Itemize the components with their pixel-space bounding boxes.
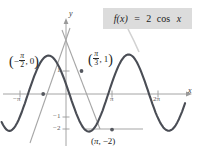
pi-over-3-fraction: π 3 bbox=[93, 50, 99, 67]
fraction-numerator: π bbox=[93, 50, 99, 58]
point-marker-pi-over-3 bbox=[80, 69, 84, 73]
fraction-numerator: π bbox=[19, 52, 25, 60]
point-marker-pi-neg-2 bbox=[110, 128, 114, 132]
y-coordinate: −2 bbox=[101, 136, 113, 146]
x-tick-label-neg-pi: −π bbox=[13, 96, 20, 103]
close-paren: ) bbox=[34, 54, 39, 69]
tangent-at-pi-over-3 bbox=[62, 30, 100, 129]
tangent-at-neg-pi-over-2 bbox=[30, 28, 70, 143]
fraction-denominator: 3 bbox=[93, 58, 99, 67]
function-label-text: f(x) = 2 cos x bbox=[114, 13, 181, 24]
x-axis-label: x bbox=[188, 87, 192, 95]
equals-sign: = bbox=[134, 13, 140, 24]
y-tick-label-1: 1 bbox=[57, 67, 61, 74]
fraction-denominator: 2 bbox=[19, 60, 25, 69]
callout-leader-line bbox=[128, 29, 139, 52]
pi-over-2-fraction: π 2 bbox=[19, 52, 25, 69]
point-marker-neg-pi-over-2 bbox=[41, 92, 45, 96]
y-tick-label-neg-2: −2 bbox=[53, 125, 60, 132]
annotation-neg-pi-over-2: (− π 2 ,0) bbox=[9, 52, 39, 69]
tangent-lines-group bbox=[30, 28, 143, 143]
close-paren: ) bbox=[112, 136, 115, 146]
annotation-pi-neg-2: (π,−2) bbox=[91, 137, 115, 146]
function-label-box: f(x) = 2 cos x bbox=[103, 8, 192, 29]
y-axis-arrow bbox=[64, 18, 69, 24]
x-tick-label-2pi: 2π bbox=[153, 96, 160, 103]
function-name: f(x) bbox=[114, 13, 128, 24]
x-tick-label-pi: π bbox=[110, 96, 114, 103]
close-paren: ) bbox=[108, 52, 113, 67]
variable-x: x bbox=[177, 13, 181, 24]
open-paren: ( bbox=[88, 52, 93, 67]
math-figure-cosine-graph: f(x) = 2 cos x x y −π π 2π 1 −1 −2 (− π … bbox=[0, 0, 198, 156]
minus-sign: − bbox=[14, 56, 19, 66]
annotation-pi-over-3: ( π 3 ,1) bbox=[88, 50, 113, 67]
cos-operator: cos bbox=[157, 13, 170, 24]
y-axis-label: y bbox=[69, 10, 73, 18]
y-tick-label-neg-1: −1 bbox=[53, 113, 60, 120]
